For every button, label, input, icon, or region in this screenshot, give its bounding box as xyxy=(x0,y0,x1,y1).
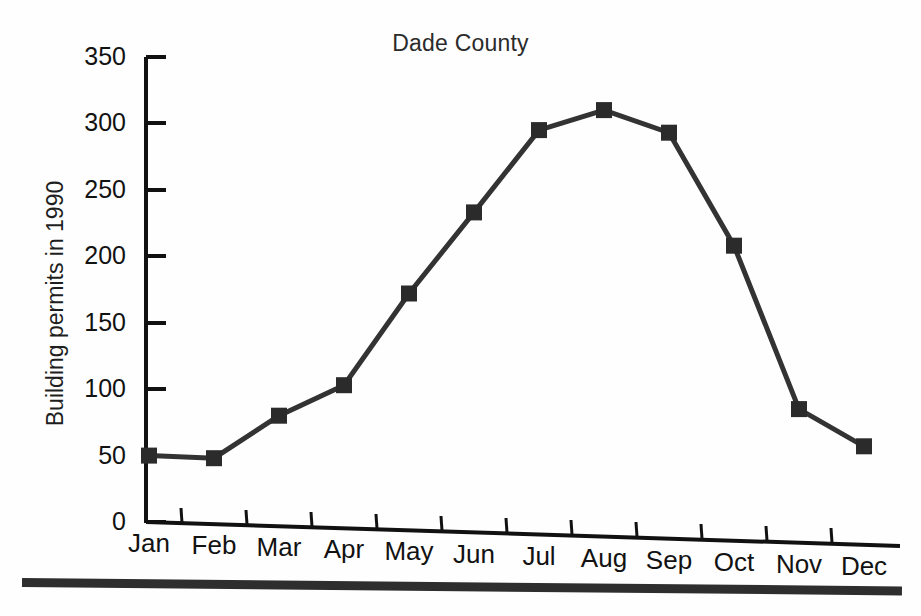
data-point-markers xyxy=(141,102,872,466)
data-point-marker xyxy=(466,204,482,220)
chart-page: Dade County Building permits in 1990 350… xyxy=(0,0,921,616)
data-point-marker xyxy=(336,377,352,393)
x-tick-label: Dec xyxy=(824,551,904,582)
data-point-marker xyxy=(661,125,677,141)
data-point-marker xyxy=(726,238,742,254)
data-point-marker xyxy=(206,450,222,466)
data-point-marker xyxy=(531,122,547,138)
data-point-marker xyxy=(401,286,417,302)
line-chart-figure: Dade County Building permits in 1990 350… xyxy=(0,0,921,616)
data-point-marker xyxy=(791,401,807,417)
data-point-marker xyxy=(141,448,157,464)
data-point-marker xyxy=(271,408,287,424)
plot-area xyxy=(0,0,921,616)
data-point-marker xyxy=(596,102,612,118)
data-series-line xyxy=(149,110,864,458)
data-point-marker xyxy=(856,438,872,454)
